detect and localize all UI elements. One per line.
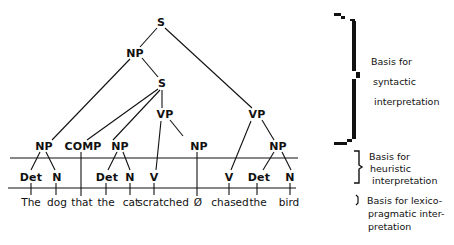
legend-lexico-line-1: Basis for lexico-	[367, 196, 442, 206]
legend-lexico-line-3: pretation	[368, 222, 411, 232]
legend-syntactic-line-1: Basis for	[371, 57, 412, 67]
legend-syntactic-line-3: interpretation	[374, 97, 439, 107]
word-the-2: the	[97, 197, 114, 208]
node-v-2: V	[225, 172, 234, 183]
node-n-1: N	[52, 172, 61, 183]
syntactic-brace	[334, 13, 360, 145]
word-that: that	[71, 197, 92, 208]
node-s-relative: S	[158, 78, 166, 89]
node-np-gap: NP	[190, 141, 208, 152]
node-det-3: Det	[248, 172, 270, 183]
node-n-3: N	[285, 172, 294, 183]
legend-heuristic-line-2: heuristic	[370, 164, 411, 174]
word-chased: chased	[211, 197, 248, 208]
node-np-1: NP	[35, 141, 53, 152]
word-the-1: The	[21, 197, 41, 208]
legend-heuristic-line-3: interpretation	[372, 176, 437, 186]
word-dog: dog	[47, 197, 67, 208]
node-v-1: V	[150, 172, 159, 183]
word-bird: bird	[279, 197, 299, 208]
node-det-2: Det	[96, 172, 118, 183]
word-the-3: the	[249, 197, 266, 208]
node-np-3: NP	[269, 141, 287, 152]
node-det-1: Det	[20, 172, 42, 183]
node-vp-relative: VP	[157, 109, 174, 120]
lexico-brace	[356, 195, 358, 205]
node-np-2: NP	[111, 141, 129, 152]
node-vp-main: VP	[249, 109, 266, 120]
legend-heuristic-line-1: Basis for	[369, 152, 410, 162]
node-n-2: N	[125, 172, 134, 183]
word-scratched: scratched	[137, 197, 189, 208]
node-s-root: S	[157, 17, 165, 28]
legend-lexico-line-2: pragmatic inter-	[368, 209, 444, 219]
word-empty-gap: Ø	[194, 197, 202, 208]
legend-syntactic-line-2: syntactic	[373, 77, 416, 87]
node-np-subject: NP	[126, 48, 144, 59]
heuristic-brace	[354, 151, 362, 183]
node-comp: COMP	[64, 141, 101, 152]
